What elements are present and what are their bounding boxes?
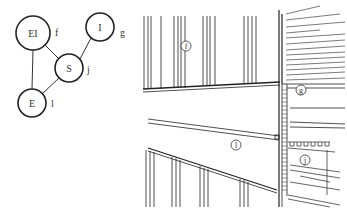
node-label-i: I [98, 22, 101, 33]
post-hatching [282, 90, 287, 190]
edge-ei-e [32, 50, 33, 89]
edge-ei-s [45, 45, 58, 58]
node-label-s: S [66, 63, 72, 74]
callout-j: j [300, 155, 310, 165]
joist-detail [288, 142, 340, 207]
graph-node-i: I g [86, 13, 125, 41]
edge-s-e [43, 78, 59, 93]
callout-f: f [181, 41, 191, 51]
svg-text:j: j [303, 156, 306, 165]
callout-g: g [296, 85, 306, 95]
scene-graph: EI f I g S j E l [0, 0, 140, 130]
upper-wall-boards [144, 16, 256, 89]
node-label-ei: EI [28, 28, 37, 39]
graph-node-ei: EI f [16, 16, 59, 50]
svg-text:f: f [185, 42, 188, 51]
node-annotation-i: g [120, 27, 125, 38]
svg-text:g: g [299, 86, 303, 95]
architectural-line-drawing: f g l j [140, 0, 347, 212]
graph-node-s: S j [55, 54, 90, 82]
edge-s-i [80, 38, 91, 59]
right-siding [286, 6, 345, 80]
callout-l: l [231, 140, 241, 150]
node-annotation-s: j [86, 64, 90, 75]
node-annotation-ei: f [55, 27, 59, 38]
graph-node-e: E l [18, 89, 54, 117]
node-label-e: E [29, 98, 35, 109]
node-annotation-e: l [51, 98, 54, 109]
